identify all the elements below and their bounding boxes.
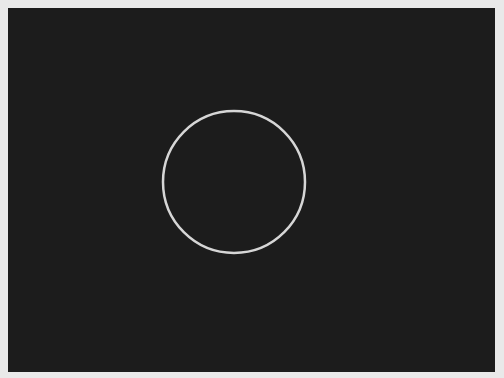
- circle-outline-graphic: [8, 8, 495, 372]
- circle-outline: [163, 111, 305, 253]
- dark-panel: [8, 8, 495, 372]
